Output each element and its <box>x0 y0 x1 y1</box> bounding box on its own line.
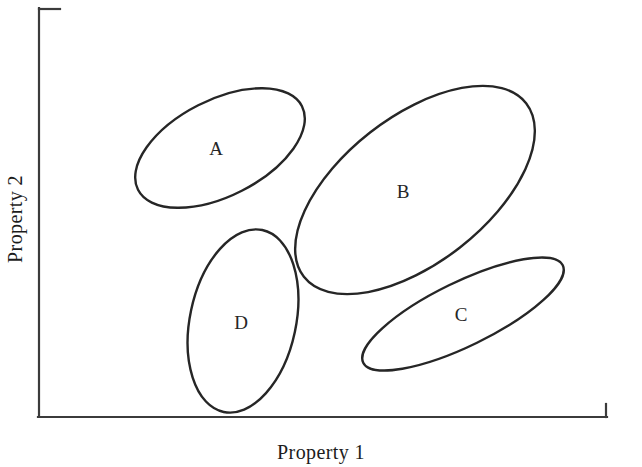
cluster-ellipse-b[interactable] <box>259 46 571 335</box>
axis-frame <box>38 8 607 417</box>
cluster-ellipse-group <box>116 46 577 423</box>
cluster-ellipse-a[interactable] <box>116 63 324 232</box>
cluster-ellipse-c[interactable] <box>349 237 577 392</box>
x-axis-label: Property 1 <box>0 442 642 462</box>
figure-container: A B C D Property 1 Property 2 <box>0 0 642 467</box>
cluster-ellipse-d[interactable] <box>172 219 314 423</box>
plot-area <box>0 0 642 467</box>
y-axis-label: Property 2 <box>5 119 25 319</box>
